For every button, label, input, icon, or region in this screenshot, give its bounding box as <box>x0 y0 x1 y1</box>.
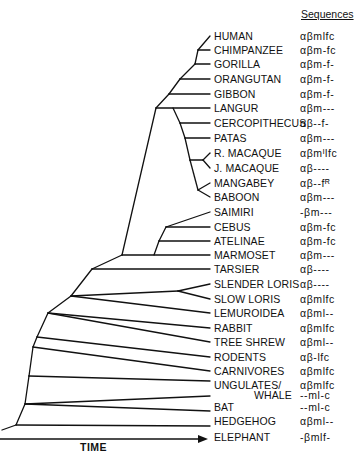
taxon-label: MANGABEY <box>214 177 274 189</box>
branch-elephant <box>16 425 210 426</box>
branch-lemur <box>71 296 210 313</box>
sequence-value: αβ--f- <box>300 117 329 129</box>
taxon-label: SAIMIRI <box>214 206 254 218</box>
taxon-label: SLENDER LORIS <box>214 278 299 290</box>
taxon-label: ELEPHANT <box>214 431 270 443</box>
branch-hedgehog <box>25 404 210 411</box>
sequence-value: αβm--- <box>300 191 335 203</box>
branch-slender-loris <box>178 284 210 291</box>
taxon-label: J. MACAQUE <box>214 162 279 174</box>
branch-rmacaque <box>203 153 210 160</box>
taxon-label: CERCOPITHECUS <box>214 117 306 129</box>
taxon-label: HUMAN <box>214 30 253 42</box>
sequence-value: αβ-lfc <box>300 351 330 363</box>
taxon-label: LANGUR <box>214 102 258 114</box>
sequence-value: αβml-- <box>300 415 334 427</box>
branch-saimiri <box>166 212 210 227</box>
sequences-header: Sequences <box>301 8 354 20</box>
taxon-label: LEMUROIDEA <box>214 307 284 319</box>
node-primate-stem <box>48 296 71 313</box>
node-ungulate-stem <box>29 347 33 376</box>
node-rodent-stem <box>37 313 48 337</box>
sequence-value: αβmlfc <box>300 30 335 42</box>
node-tarsier <box>92 255 122 269</box>
node-patas-stem <box>180 123 185 138</box>
sequence-value: αβm-fc <box>300 221 336 233</box>
taxon-label: CEBUS <box>214 221 251 233</box>
sequence-value: αβm-fc <box>300 235 336 247</box>
node-bat-stem <box>25 376 29 404</box>
taxon-label: HEDGEHOG <box>214 415 276 427</box>
taxon-label: GORILLA <box>214 58 260 70</box>
sequence-value: αβm--- <box>300 132 335 144</box>
node-loris-stem <box>71 291 178 296</box>
taxon-label: PATAS <box>214 132 247 144</box>
branch-slow-loris <box>178 291 210 299</box>
sequence-value: αβ---- <box>300 278 330 290</box>
sequence-value: -βmlf- <box>300 431 331 443</box>
branch-jmacaque <box>203 160 210 168</box>
root <box>2 425 16 430</box>
branch-human <box>198 36 210 50</box>
taxon-label: ORANGUTAN <box>214 73 281 85</box>
taxon-label: MARMOSET <box>214 249 275 261</box>
node-strepsirrhine <box>71 269 92 296</box>
sequence-value: --ml-c <box>300 389 330 401</box>
node-hc <box>195 50 198 64</box>
branch-rodents <box>37 337 210 357</box>
sequence-value: αβm--- <box>300 249 335 261</box>
taxon-label: BABOON <box>214 191 260 203</box>
taxon-label: ATELINAE <box>214 235 265 247</box>
sequence-value: αβ---- <box>300 162 330 174</box>
sequence-value: -βm--- <box>300 206 332 218</box>
taxon-label: TARSIER <box>214 263 259 275</box>
taxon-label: WHALE <box>254 389 292 401</box>
taxon-label: CARNIVORES <box>214 365 284 377</box>
sequence-value: αβml-- <box>300 336 334 348</box>
sequence-value: αβm--- <box>300 102 335 114</box>
node-papionin <box>190 160 198 190</box>
sequence-value: αβm-fc <box>300 44 336 56</box>
sequence-value: αβm-f- <box>300 58 334 70</box>
taxon-label: RODENTS <box>214 351 266 363</box>
sequence-value: αβm-f- <box>300 88 334 100</box>
taxon-label: RABBIT <box>214 322 253 334</box>
branch-mangabey <box>198 183 210 190</box>
branch-carnivores <box>33 347 210 371</box>
taxon-label: SLOW LORIS <box>214 293 280 305</box>
taxon-label: R. MACAQUE <box>214 147 282 159</box>
taxon-label: BAT <box>214 401 234 413</box>
branch-treeshrew <box>48 313 210 342</box>
branch-baboon <box>198 190 210 197</box>
node-eutherian <box>16 404 25 425</box>
sequence-value: αβmlfc <box>300 293 335 305</box>
taxon-label: TREE SHREW <box>214 336 285 348</box>
node-great-apes <box>169 79 180 94</box>
sequence-value: αβm-f- <box>300 73 334 85</box>
sequence-value: αβmlfc <box>300 322 335 334</box>
arrow-right-icon <box>198 435 208 443</box>
branch-ungulates <box>29 376 210 381</box>
node-carnivore-stem <box>33 337 37 347</box>
time-axis-label: TIME <box>80 441 107 453</box>
sequence-value: --ml-c <box>300 401 330 413</box>
node-platyrrhine <box>154 241 159 255</box>
sequence-value: αβ--fᴿ <box>300 177 330 189</box>
node-hcg <box>180 64 195 79</box>
node-macaque-stem <box>185 138 190 160</box>
node-anthropoid <box>122 108 156 255</box>
sequence-value: αβ---- <box>300 263 330 275</box>
taxon-label: CHIMPANZEE <box>214 44 283 56</box>
taxon-label: GIBBON <box>214 88 255 100</box>
node-hominoid <box>156 94 169 108</box>
sequence-value: αβmlfc <box>300 365 335 377</box>
branch-bat <box>25 396 210 404</box>
branch-rabbit <box>48 313 210 328</box>
sequence-value: αβmᴵlfc <box>300 147 337 159</box>
node-cerco-stem <box>173 108 180 123</box>
node-cebus <box>159 227 166 241</box>
sequence-value: αβml-- <box>300 307 334 319</box>
